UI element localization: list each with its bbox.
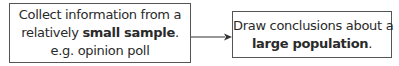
small-sample-emphasis: small sample (82, 25, 175, 40)
conclusion-line-2: large population. (233, 35, 391, 53)
sample-line-1: Collect information from a (10, 6, 190, 24)
sample-line-2: relatively small sample. (10, 24, 190, 42)
large-population-emphasis: large population (252, 36, 368, 51)
arrow-right-icon (191, 33, 232, 41)
conclusion-box: Draw conclusions about a large populatio… (232, 11, 392, 58)
conclusion-line-2-suffix: . (368, 36, 372, 51)
sample-line-2-prefix: relatively (21, 25, 82, 40)
sample-line-2-suffix: . (175, 25, 179, 40)
sample-box: Collect information from a relatively sm… (9, 3, 191, 63)
conclusion-line-1: Draw conclusions about a (233, 17, 391, 35)
sample-example: e.g. opinion poll (10, 42, 190, 60)
